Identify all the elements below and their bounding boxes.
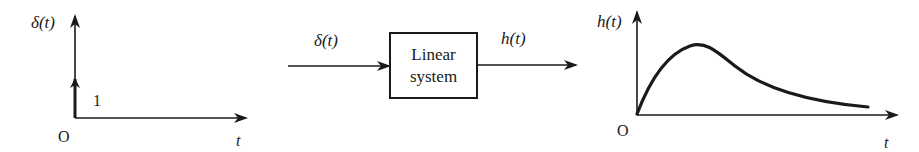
x-axis-label: t <box>884 134 889 151</box>
origin-label: O <box>58 128 70 145</box>
linear-system-box <box>390 33 477 98</box>
block-label-line1: Linear <box>411 45 456 64</box>
y-axis-label: δ(t) <box>31 13 55 32</box>
impulse-amplitude-label: 1 <box>93 92 101 109</box>
impulse-response-curve <box>637 45 868 114</box>
system-block-diagram: δ(t) Linear system h(t) <box>288 29 576 98</box>
x-axis-label: t <box>236 132 241 149</box>
output-impulse-response-plot: h(t) O t <box>597 12 897 151</box>
origin-label: O <box>617 122 629 139</box>
input-impulse-plot: δ(t) 1 O t <box>31 13 246 149</box>
output-signal-label: h(t) <box>501 29 526 48</box>
input-signal-label: δ(t) <box>314 31 338 50</box>
y-axis-label: h(t) <box>597 12 622 31</box>
block-label-line2: system <box>410 67 457 86</box>
diagram-canvas: δ(t) 1 O t δ(t) Linear system h(t) h(t) … <box>0 0 919 152</box>
